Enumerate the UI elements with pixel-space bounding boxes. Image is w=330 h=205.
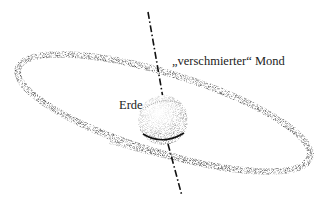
earth-label: Erde xyxy=(119,99,143,112)
diagram-canvas xyxy=(0,0,330,205)
earth-moon-diagram: „verschmierter“ Mond Erde xyxy=(0,0,330,205)
smeared-moon-ring-front xyxy=(110,142,230,170)
rotation-axis-upper xyxy=(148,12,163,98)
smeared-moon-label: „verschmierter“ Mond xyxy=(172,55,285,68)
earth-sphere xyxy=(138,95,188,145)
rotation-axis-lower xyxy=(168,144,182,196)
